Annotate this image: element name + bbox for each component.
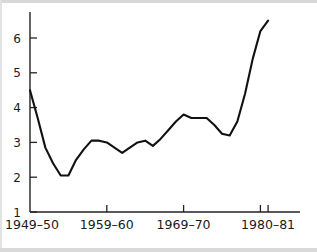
x-tick-label: 1969–70: [157, 217, 211, 232]
x-axis-ticks: [107, 205, 268, 212]
y-tick-label: 6: [13, 32, 21, 46]
y-tick-label: 5: [13, 66, 21, 80]
line-chart-plot: 123456 1949–501959–601969–701980–81: [0, 0, 317, 252]
x-tick-label: 1949–50: [5, 217, 59, 232]
y-axis-tick-labels: 123456: [13, 32, 21, 220]
y-axis-ticks: [30, 38, 37, 212]
x-axis-tick-labels: 1949–501959–601969–701980–81: [5, 217, 295, 232]
y-tick-label: 3: [13, 136, 21, 150]
data-series-line: [30, 21, 268, 176]
chart-figure: 123456 1949–501959–601969–701980–81: [0, 0, 317, 252]
x-tick-label: 1959–60: [80, 217, 134, 232]
y-tick-label: 4: [13, 101, 21, 115]
x-tick-label: 1980–81: [241, 217, 295, 232]
y-tick-label: 2: [13, 171, 21, 185]
